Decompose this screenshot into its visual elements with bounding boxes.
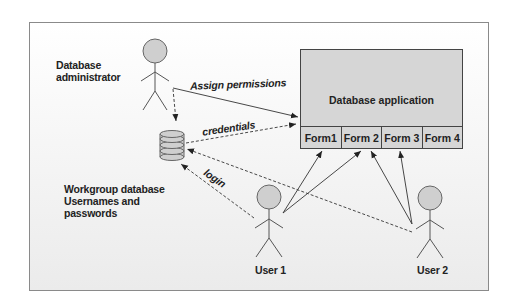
user2-to-db-arrow [187,149,412,232]
form-1: Form1 [300,127,341,149]
forms-row: Form1 Form 2 Form 3 Form 4 [300,126,463,149]
user1-to-form1-arrow [283,151,322,213]
workgroup-label-line2: Usernames and [64,195,140,207]
admin-to-db-arrow [173,89,176,121]
user2-label: User 2 [417,264,448,276]
diagram-canvas [0,0,515,308]
user1-to-form2-arrow [283,151,361,213]
admin-label-line2: administrator [56,71,121,83]
form-2: Form 2 [341,127,382,149]
admin-actor-icon [141,39,169,110]
form-3: Form 3 [381,127,422,149]
form-4: Form 4 [422,127,464,149]
admin-label-line1: Database [56,59,101,71]
user1-actor-icon [255,185,283,257]
database-cylinder-icon [160,131,184,161]
user2-actor-icon [416,186,444,258]
assign-permissions-arrow [173,88,298,117]
database-application-title: Database application [301,94,462,106]
workgroup-label-line3: passwords [64,207,117,219]
workgroup-label-line1: Workgroup database [64,183,165,195]
user1-label: User 1 [255,264,286,276]
database-application-box: Database application Form1 Form 2 Form 3… [300,49,463,149]
